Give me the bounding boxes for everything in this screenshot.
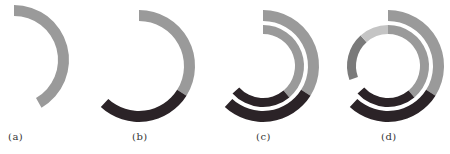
outer-ring-segment-gray bbox=[14, 5, 69, 108]
panel-b bbox=[101, 10, 195, 122]
panel-label-b: (b) bbox=[132, 131, 148, 142]
panel-label-a: (a) bbox=[8, 131, 23, 142]
panel-a bbox=[14, 5, 69, 108]
panel-d bbox=[347, 10, 444, 122]
panel-label-c: (c) bbox=[256, 131, 271, 142]
inner-ring-segment-dark bbox=[233, 87, 290, 107]
inner-ring-segment-mid_gray bbox=[347, 36, 367, 80]
outer-ring-segment-dark bbox=[101, 90, 187, 122]
panel-label-d: (d) bbox=[381, 131, 397, 142]
inner-ring-segment-light_gray bbox=[361, 25, 388, 42]
panel-c bbox=[225, 10, 319, 122]
inner-ring-segment-dark bbox=[358, 87, 415, 107]
outer-ring-segment-gray bbox=[139, 10, 195, 96]
